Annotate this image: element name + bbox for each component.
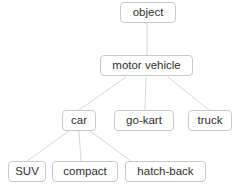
node-object[interactable]: object — [120, 2, 176, 23]
taxonomy-diagram: object motor vehicle car go-kart truck S… — [0, 0, 245, 193]
node-compact[interactable]: compact — [52, 161, 118, 182]
edge-car-hatch-back — [90, 131, 131, 161]
node-label: compact — [53, 162, 117, 181]
node-label: truck — [189, 111, 231, 130]
node-car[interactable]: car — [62, 110, 96, 131]
node-label: SUV — [9, 162, 45, 181]
edge-motor-vehicle-car — [79, 77, 126, 110]
node-motor-vehicle[interactable]: motor vehicle — [100, 55, 193, 76]
node-label: go-kart — [115, 111, 173, 130]
edge-car-compact — [79, 131, 81, 161]
node-label: car — [63, 111, 95, 130]
edge-motor-vehicle-go-kart — [145, 77, 146, 110]
node-hatch-back[interactable]: hatch-back — [125, 161, 206, 182]
node-suv[interactable]: SUV — [8, 161, 46, 182]
edge-car-suv — [27, 131, 69, 161]
edge-motor-vehicle-truck — [168, 77, 209, 110]
node-label: object — [121, 3, 175, 22]
node-label: motor vehicle — [101, 56, 192, 75]
node-label: hatch-back — [126, 162, 205, 181]
node-go-kart[interactable]: go-kart — [114, 110, 174, 131]
node-truck[interactable]: truck — [188, 110, 232, 131]
